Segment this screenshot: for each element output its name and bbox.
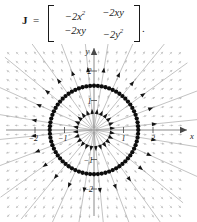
phase-portrait-svg: −2−112−2−112xy: [0, 44, 197, 222]
field-arrow: [143, 78, 147, 82]
field-arrow: [107, 59, 110, 63]
field-arrow: [42, 179, 46, 183]
limit-cycle-dot: [100, 84, 104, 88]
field-arrow: [6, 196, 10, 199]
field-arrow: [107, 205, 109, 209]
field-arrow: [116, 68, 119, 72]
field-arrow: [134, 51, 137, 55]
field-arrow: [79, 179, 82, 183]
field-arrow: [51, 170, 55, 174]
field-arrow: [152, 96, 156, 99]
field-arrow: [68, 104, 72, 108]
limit-cycle-dot: [48, 128, 52, 132]
field-arrow: [160, 115, 164, 118]
field-arrow: [51, 196, 54, 200]
limit-cycle-dot: [48, 136, 52, 140]
limit-cycle-dot: [48, 124, 52, 128]
formula-period: .: [142, 22, 145, 34]
field-arrow: [33, 196, 36, 200]
field-arrow: [152, 78, 156, 81]
field-arrow: [15, 124, 19, 126]
field-arrow: [42, 51, 45, 55]
field-arrow: [134, 179, 137, 183]
field-arrow: [169, 69, 173, 72]
field-arrow: [33, 69, 37, 73]
field-arrow: [6, 78, 10, 81]
field-arrow: [107, 104, 110, 108]
field-arrow: [42, 170, 46, 173]
field-arrow: [116, 59, 119, 63]
field-arrow: [169, 87, 173, 90]
equals-sign: =: [33, 14, 39, 26]
field-arrow: [178, 214, 182, 218]
matrix-row: −2xy −2y2: [56, 24, 132, 42]
field-arrow: [152, 143, 156, 146]
field-arrow: [15, 196, 19, 199]
limit-cycle-dot: [92, 84, 96, 88]
field-arrow: [98, 161, 100, 165]
field-arrow: [6, 214, 10, 218]
x-tick-label: 1: [122, 134, 126, 143]
limit-cycle-dot: [80, 85, 84, 89]
field-arrow: [15, 214, 18, 218]
field-arrow: [178, 51, 182, 54]
field-arrow: [68, 143, 72, 146]
field-arrow: [169, 133, 173, 135]
field-arrow: [32, 115, 36, 118]
field-arrow: [160, 152, 164, 155]
field-arrow: [51, 51, 54, 55]
field-arrow: [160, 179, 164, 182]
field-arrow: [61, 214, 64, 218]
field-arrow: [15, 152, 19, 155]
field-arrow: [178, 133, 182, 135]
field-arrow: [134, 196, 137, 200]
field-arrow: [15, 60, 19, 63]
field-arrow: [98, 77, 100, 81]
field-arrow: [107, 161, 110, 165]
field-arrow: [125, 51, 128, 55]
field-arrow: [116, 205, 119, 209]
field-arrow: [79, 77, 82, 81]
matrix-cell-1-1-base: −2y: [103, 28, 120, 39]
field-arrow: [60, 86, 63, 90]
field-arrow: [6, 152, 10, 155]
field-arrow: [24, 188, 28, 191]
field-arrow: [24, 196, 28, 200]
phase-portrait: −2−112−2−112xy: [0, 44, 197, 222]
field-arrow: [160, 143, 164, 146]
field-arrow: [41, 115, 45, 118]
field-arrow: [178, 60, 182, 63]
field-arrow: [23, 152, 27, 155]
limit-cycle-dot: [103, 85, 107, 89]
field-arrow: [152, 51, 155, 55]
field-arrow: [107, 152, 110, 156]
field-arrow: [79, 68, 82, 72]
y-axis-label: y: [85, 46, 90, 56]
limit-cycle-dot: [96, 172, 100, 176]
field-arrow: [169, 179, 173, 182]
field-arrow: [78, 104, 81, 108]
field-arrow: [15, 69, 19, 72]
field-arrow: [70, 214, 73, 218]
field-arrow: [51, 205, 54, 209]
field-arrow: [134, 205, 137, 209]
field-arrow: [33, 179, 37, 182]
field-arrow: [59, 143, 63, 146]
field-arrow: [79, 51, 81, 55]
field-arrow: [15, 170, 19, 173]
field-arrow: [70, 51, 73, 55]
x-axis-arrowhead: [180, 127, 187, 133]
field-arrow: [125, 188, 128, 192]
x-tick-label: −1: [58, 134, 67, 143]
field-arrow: [51, 60, 54, 64]
field-arrow: [97, 205, 99, 209]
field-arrow: [160, 214, 163, 218]
field-arrow: [88, 60, 90, 64]
field-arrow: [143, 188, 146, 192]
field-arrow: [6, 133, 10, 135]
field-arrow: [169, 78, 173, 81]
limit-cycle-dot: [48, 132, 52, 136]
field-arrow: [178, 179, 182, 182]
field-arrow: [6, 124, 10, 126]
field-arrow: [143, 96, 147, 99]
